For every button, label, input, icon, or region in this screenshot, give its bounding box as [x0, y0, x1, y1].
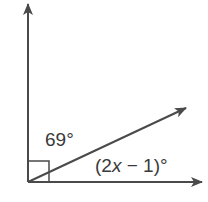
- angle-label-expression: (2x − 1)°: [95, 156, 168, 175]
- right-angle-marker: [28, 161, 49, 182]
- angle-label-69: 69°: [45, 130, 74, 149]
- expr-open: (2: [95, 155, 112, 176]
- expr-variable-x: x: [112, 155, 122, 176]
- expr-rest: − 1)°: [121, 155, 167, 176]
